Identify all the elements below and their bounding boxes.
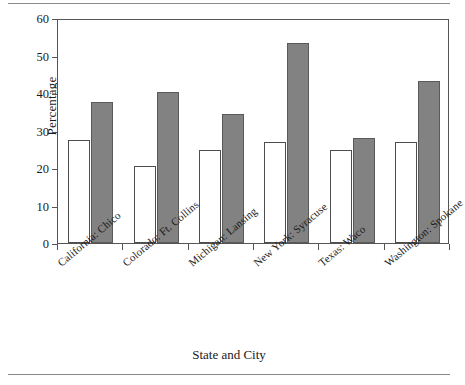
y-tick-label-10: 10 (25, 200, 49, 213)
bar-open-3 (264, 142, 286, 243)
x-tick-mark-3 (253, 244, 254, 250)
bar-open-2 (199, 150, 221, 243)
x-tick-mark-4 (318, 244, 319, 250)
y-tick-label-60: 60 (25, 13, 49, 26)
top-divider-rule (8, 3, 450, 4)
y-tick-label-50: 50 (25, 50, 49, 63)
x-tick-mark-6 (449, 244, 450, 250)
x-tick-mark-2 (188, 244, 189, 250)
x-tick-mark-1 (122, 244, 123, 250)
bar-open-0 (68, 140, 90, 243)
y-tick-label-0: 0 (25, 238, 49, 251)
x-tick-mark-0 (57, 244, 58, 250)
bottom-divider-rule (8, 374, 450, 375)
y-tick-label-40: 40 (25, 88, 49, 101)
bar-open-4 (330, 150, 352, 243)
x-axis-title: State and City (0, 347, 458, 363)
y-tick-label-30: 30 (25, 125, 49, 138)
y-tick-label-20: 20 (25, 163, 49, 176)
x-tick-mark-5 (384, 244, 385, 250)
bar-open-5 (395, 142, 417, 243)
